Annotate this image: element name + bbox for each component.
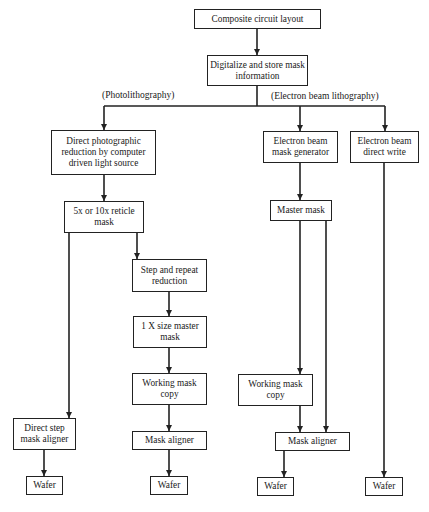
node-1x-master-mask: 1 X size master mask xyxy=(133,316,207,348)
node-direct-photographic-reduction: Direct photographic reduction by compute… xyxy=(51,130,156,175)
node-direct-step-mask-aligner: Direct step mask aligner xyxy=(13,418,76,450)
node-mask-aligner-photo: Mask aligner xyxy=(132,431,207,450)
node-wafer-4: Wafer xyxy=(365,477,403,496)
node-eb-mask-generator: Electron beam mask generator xyxy=(263,131,338,163)
node-working-mask-copy-photo: Working mask copy xyxy=(132,373,207,405)
node-wafer-3: Wafer xyxy=(257,477,294,496)
node-working-mask-copy-eb: Working mask copy xyxy=(238,374,313,406)
node-reticle-mask: 5x or 10x reticle mask xyxy=(64,201,144,233)
node-wafer-2: Wafer xyxy=(150,476,188,495)
node-master-mask: Master mask xyxy=(270,200,332,221)
node-composite-layout: Composite circuit layout xyxy=(194,9,321,29)
branch-label-photolithography: (Photolithography) xyxy=(102,90,174,100)
node-mask-aligner-eb: Mask aligner xyxy=(275,432,350,451)
node-digitalize-store: Digitalize and store mask information xyxy=(207,55,308,86)
branch-label-electron-beam: (Electron beam lithography) xyxy=(271,91,379,101)
node-wafer-1: Wafer xyxy=(26,476,63,495)
node-eb-direct-write: Electron beam direct write xyxy=(350,131,419,163)
node-step-and-repeat: Step and repeat reduction xyxy=(132,259,207,292)
